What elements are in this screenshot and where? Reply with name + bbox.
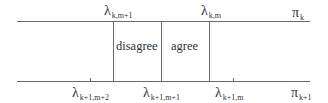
lambda-symbol: λ — [143, 85, 150, 100]
label-pi-k: πk — [292, 6, 304, 20]
label-lambda-k-m+1: λk,m+1 — [104, 4, 133, 18]
top-axis-line — [17, 21, 310, 22]
tick-k+1-m+2 — [90, 78, 91, 82]
pi-symbol: π — [291, 85, 298, 100]
region-agree: agree — [171, 40, 198, 53]
region-disagree: disagree — [116, 40, 158, 53]
lambda-symbol: λ — [72, 85, 79, 100]
tick-k+1-m — [233, 78, 234, 82]
connector-k-m+1-to-k+1-m+2 — [113, 21, 114, 81]
connector-middle — [161, 21, 162, 81]
bottom-axis-line — [17, 81, 310, 82]
lambda-symbol: λ — [201, 3, 208, 18]
lambda-symbol: λ — [215, 85, 222, 100]
label-lambda-k+1-m: λk+1,m — [215, 86, 244, 100]
connector-k-m-to-k+1-m+1 — [209, 21, 210, 81]
label-lambda-k-m: λk,m — [201, 4, 221, 18]
pi-symbol: π — [292, 5, 299, 20]
label-lambda-k+1-m+2: λk+1,m+2 — [72, 86, 109, 100]
label-pi-k+1: πk+1 — [291, 86, 312, 100]
lambda-symbol: λ — [104, 3, 111, 18]
label-lambda-k+1-m+1: λk+1,m+1 — [143, 86, 180, 100]
